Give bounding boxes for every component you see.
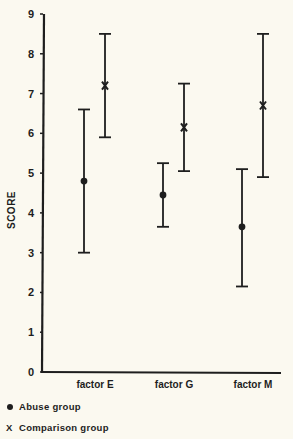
y-axis-line — [42, 14, 44, 372]
x-category-label: factor E — [76, 379, 114, 390]
error-bars — [78, 34, 269, 287]
y-tick-label: 4 — [28, 207, 35, 219]
error-bar-chart: 0123456789 factor Efactor Gfactor M SCOR… — [0, 0, 293, 439]
x-axis-categories: factor Efactor Gfactor M — [76, 379, 272, 390]
error-bar-abuse — [236, 169, 248, 286]
y-tick-label: 0 — [28, 366, 34, 378]
y-tick-label: 9 — [28, 8, 34, 20]
dot-marker-icon — [7, 404, 13, 410]
legend: Abuse group X Comparison group — [6, 396, 109, 438]
error-bar-comparison — [178, 84, 190, 172]
x-category-label: factor M — [234, 379, 273, 390]
legend-item-comparison: X Comparison group — [6, 417, 109, 438]
y-axis-title: SCORE — [6, 191, 17, 229]
y-tick-label: 1 — [28, 326, 34, 338]
legend-item-abuse: Abuse group — [6, 396, 109, 417]
y-tick-label: 6 — [28, 127, 34, 139]
error-bar-abuse — [157, 163, 169, 227]
y-tick-label: 5 — [28, 167, 34, 179]
y-tick-label: 7 — [28, 88, 34, 100]
dot-marker-icon — [239, 223, 246, 230]
legend-label-comparison: Comparison group — [19, 422, 109, 433]
x-axis-line — [41, 372, 281, 373]
dot-marker-icon — [160, 192, 167, 199]
legend-label-abuse: Abuse group — [19, 401, 81, 412]
dot-marker-icon — [81, 178, 88, 185]
y-tick-label: 8 — [28, 48, 34, 60]
error-bar-comparison — [257, 34, 269, 177]
error-bar-comparison — [99, 34, 111, 137]
error-bar-abuse — [78, 109, 90, 252]
y-tick-label: 2 — [28, 286, 34, 298]
y-tick-label: 3 — [28, 247, 34, 259]
x-marker-icon: X — [6, 422, 14, 433]
y-axis-ticks: 0123456789 — [28, 8, 43, 378]
x-category-label: factor G — [155, 379, 194, 390]
